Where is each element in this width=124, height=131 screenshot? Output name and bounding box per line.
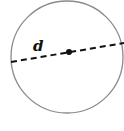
diameter-label: d xyxy=(33,37,44,55)
circle-diagram: d xyxy=(0,0,124,131)
center-point xyxy=(66,49,72,55)
circle-outline xyxy=(11,1,123,113)
